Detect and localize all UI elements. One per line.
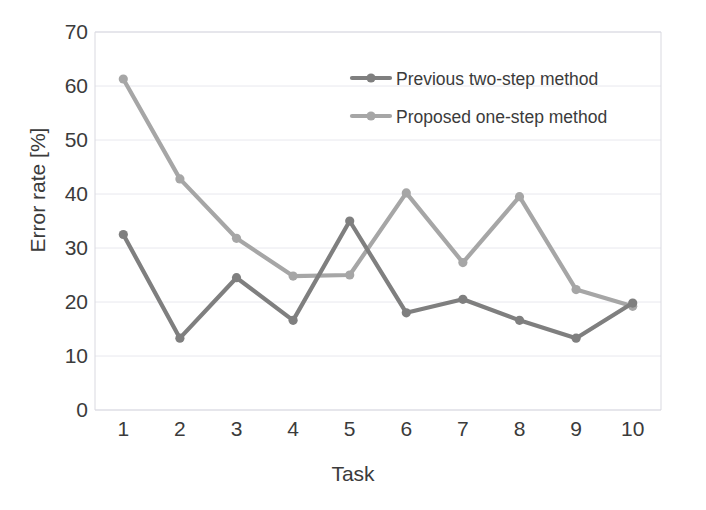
series-line xyxy=(123,221,632,338)
x-tick-label: 1 xyxy=(103,418,143,439)
data-point xyxy=(402,308,411,317)
data-point xyxy=(458,258,467,267)
line-chart: Error rate [%] 010203040506070 Previous … xyxy=(0,0,706,510)
data-point xyxy=(175,334,184,343)
x-tick-label: 4 xyxy=(273,418,313,439)
x-tick-label: 6 xyxy=(386,418,426,439)
x-tick-label: 10 xyxy=(613,418,653,439)
data-point xyxy=(572,285,581,294)
data-point xyxy=(515,316,524,325)
data-point xyxy=(345,216,354,225)
data-point xyxy=(232,273,241,282)
x-tick-label: 2 xyxy=(160,418,200,439)
legend-label: Proposed one-step method xyxy=(396,107,607,127)
data-point xyxy=(572,334,581,343)
gridlines xyxy=(95,32,661,410)
plot-frame xyxy=(95,32,661,410)
legend-marker xyxy=(366,111,375,120)
data-point xyxy=(119,230,128,239)
x-tick-label: 7 xyxy=(443,418,483,439)
data-point xyxy=(119,74,128,83)
data-point xyxy=(515,192,524,201)
data-point xyxy=(402,188,411,197)
x-tick-label: 5 xyxy=(330,418,370,439)
chart-legend: Previous two-step methodProposed one-ste… xyxy=(352,69,607,127)
data-point xyxy=(458,295,467,304)
x-tick-label: 8 xyxy=(500,418,540,439)
legend-marker xyxy=(366,73,375,82)
x-axis-title: Task xyxy=(0,462,706,486)
x-tick-label: 9 xyxy=(556,418,596,439)
x-tick-label: 3 xyxy=(217,418,257,439)
data-point xyxy=(345,270,354,279)
data-point xyxy=(289,271,298,280)
data-point xyxy=(175,174,184,183)
data-point xyxy=(289,316,298,325)
legend-label: Previous two-step method xyxy=(396,69,598,89)
data-point xyxy=(232,234,241,243)
data-point xyxy=(628,298,637,307)
